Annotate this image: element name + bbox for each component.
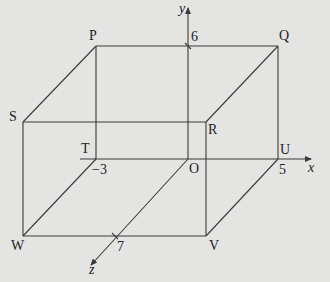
diagram-canvas: P Q S R T O U V W y x z 6 −3 5 7 — [0, 0, 330, 282]
label-x-axis: x — [307, 160, 315, 175]
label-O: O — [189, 161, 199, 176]
tick-label-y-6: 6 — [191, 29, 198, 44]
tick-label-x-neg3: −3 — [92, 162, 107, 177]
label-S: S — [9, 109, 17, 124]
cuboid-diagram: P Q S R T O U V W y x z 6 −3 5 7 — [0, 0, 330, 282]
label-z-axis: z — [88, 262, 95, 277]
edge-PS — [23, 46, 96, 122]
label-Q: Q — [279, 28, 289, 43]
label-T: T — [81, 141, 90, 156]
label-W: W — [11, 238, 25, 253]
tick-label-z-7: 7 — [117, 239, 124, 254]
label-P: P — [89, 28, 97, 43]
edge-UV — [206, 159, 278, 236]
label-U: U — [280, 142, 290, 157]
tick-label-x-5: 5 — [279, 162, 286, 177]
label-R: R — [208, 122, 218, 137]
label-y-axis: y — [177, 1, 186, 16]
label-V: V — [209, 238, 219, 253]
edge-TW — [23, 159, 96, 236]
edge-QR — [206, 46, 278, 122]
